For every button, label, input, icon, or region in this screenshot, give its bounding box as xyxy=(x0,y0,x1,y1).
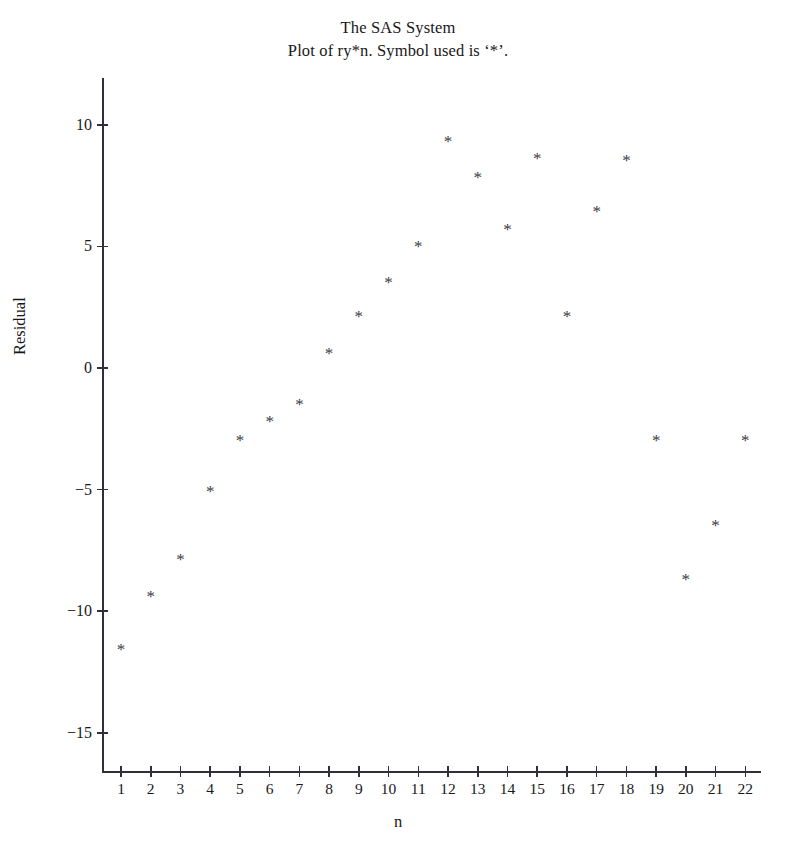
data-point: * xyxy=(503,220,512,237)
x-axis-tick xyxy=(655,766,657,777)
x-axis-tick xyxy=(626,766,628,777)
y-axis-tick xyxy=(97,732,108,734)
data-point: * xyxy=(295,395,304,412)
data-point: * xyxy=(444,132,453,149)
y-axis-tick xyxy=(97,610,108,612)
data-point: * xyxy=(176,551,185,568)
y-axis-tick-label: −10 xyxy=(28,602,92,620)
data-point: * xyxy=(236,432,245,449)
x-axis-tick xyxy=(566,766,568,777)
x-axis-tick xyxy=(388,766,390,777)
x-axis-tick xyxy=(418,766,420,777)
x-axis-tick xyxy=(269,766,271,777)
x-axis-tick xyxy=(507,766,509,777)
data-point: * xyxy=(384,274,393,291)
x-axis-tick xyxy=(447,766,449,777)
x-axis-tick-label: 22 xyxy=(725,780,765,798)
x-axis-tick xyxy=(209,766,211,777)
x-axis-tick xyxy=(715,766,717,777)
x-axis-title: n xyxy=(0,812,796,832)
data-point: * xyxy=(414,237,423,254)
x-axis-tick xyxy=(180,766,182,777)
y-axis-line xyxy=(102,78,104,773)
data-point: * xyxy=(117,641,126,658)
y-axis-tick xyxy=(97,489,108,491)
y-axis-tick-label: −15 xyxy=(28,724,92,742)
y-axis-tick-label: −5 xyxy=(28,481,92,499)
x-axis-line xyxy=(102,771,761,773)
y-axis-tick xyxy=(97,124,108,126)
data-point: * xyxy=(325,344,334,361)
data-point: * xyxy=(741,432,750,449)
y-axis-tick-label: 10 xyxy=(28,116,92,134)
x-axis-tick xyxy=(120,766,122,777)
data-point: * xyxy=(711,517,720,534)
data-point: * xyxy=(265,412,274,429)
y-axis-tick-label: 0 xyxy=(28,359,92,377)
x-axis-tick xyxy=(685,766,687,777)
x-axis-tick xyxy=(299,766,301,777)
x-axis-tick xyxy=(477,766,479,777)
x-axis-tick xyxy=(596,766,598,777)
data-point: * xyxy=(206,483,215,500)
x-axis-tick xyxy=(239,766,241,777)
data-point: * xyxy=(682,570,691,587)
data-point: * xyxy=(652,432,661,449)
y-axis-tick xyxy=(97,246,108,248)
data-point: * xyxy=(146,587,155,604)
data-point: * xyxy=(355,308,364,325)
y-axis-title: Residual xyxy=(10,297,30,355)
scatter-plot-figure: The SAS System Plot of ry*n. Symbol used… xyxy=(0,0,796,861)
y-axis-tick-label: 5 xyxy=(28,237,92,255)
x-axis-tick xyxy=(745,766,747,777)
data-point: * xyxy=(533,149,542,166)
data-point: * xyxy=(592,203,601,220)
data-point: * xyxy=(563,308,572,325)
data-point: * xyxy=(622,152,631,169)
plot-area: 1050−5−10−151234567891011121314151617181… xyxy=(0,0,796,861)
x-axis-tick xyxy=(358,766,360,777)
x-axis-tick xyxy=(328,766,330,777)
x-axis-tick xyxy=(150,766,152,777)
data-point: * xyxy=(474,169,483,186)
y-axis-tick xyxy=(97,367,108,369)
x-axis-tick xyxy=(536,766,538,777)
